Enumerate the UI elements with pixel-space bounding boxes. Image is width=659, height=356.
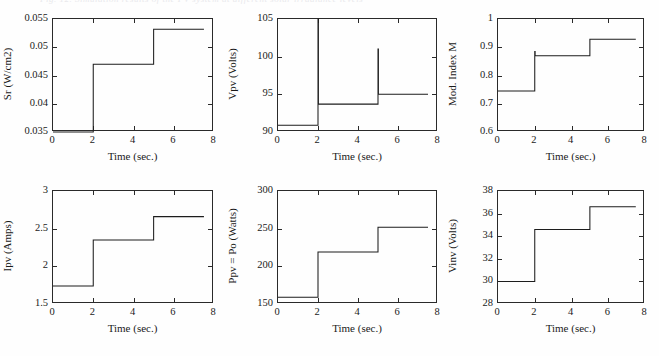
xtick-label-vinv-0: 0 xyxy=(494,306,499,317)
ytick-label-vinv-0: 28 xyxy=(453,298,493,309)
xtick-label-vinv-4: 8 xyxy=(641,306,646,317)
figure-canvas: Fig. 12. Simulation results of the PV sy… xyxy=(0,0,659,356)
xtick-label-vinv-1: 2 xyxy=(531,306,536,317)
data-trace-vinv xyxy=(498,191,645,304)
xaxis-label-vinv: Time (sec.) xyxy=(497,322,644,334)
ytick-label-vinv-1: 30 xyxy=(453,275,493,286)
ytick-label-vinv-4: 36 xyxy=(453,207,493,218)
xtick-label-vinv-3: 6 xyxy=(605,306,610,317)
yaxis-label-vinv: Vinv (Volts) xyxy=(445,179,457,312)
ytick-label-vinv-2: 32 xyxy=(453,253,493,264)
ytick-label-vinv-3: 34 xyxy=(453,230,493,241)
plot-axes-vinv xyxy=(497,190,644,303)
subplot-vinv: 02468283032343638Time (sec.)Vinv (Volts) xyxy=(0,0,659,356)
ytick-label-vinv-5: 38 xyxy=(453,185,493,196)
xtick-label-vinv-2: 4 xyxy=(568,306,573,317)
